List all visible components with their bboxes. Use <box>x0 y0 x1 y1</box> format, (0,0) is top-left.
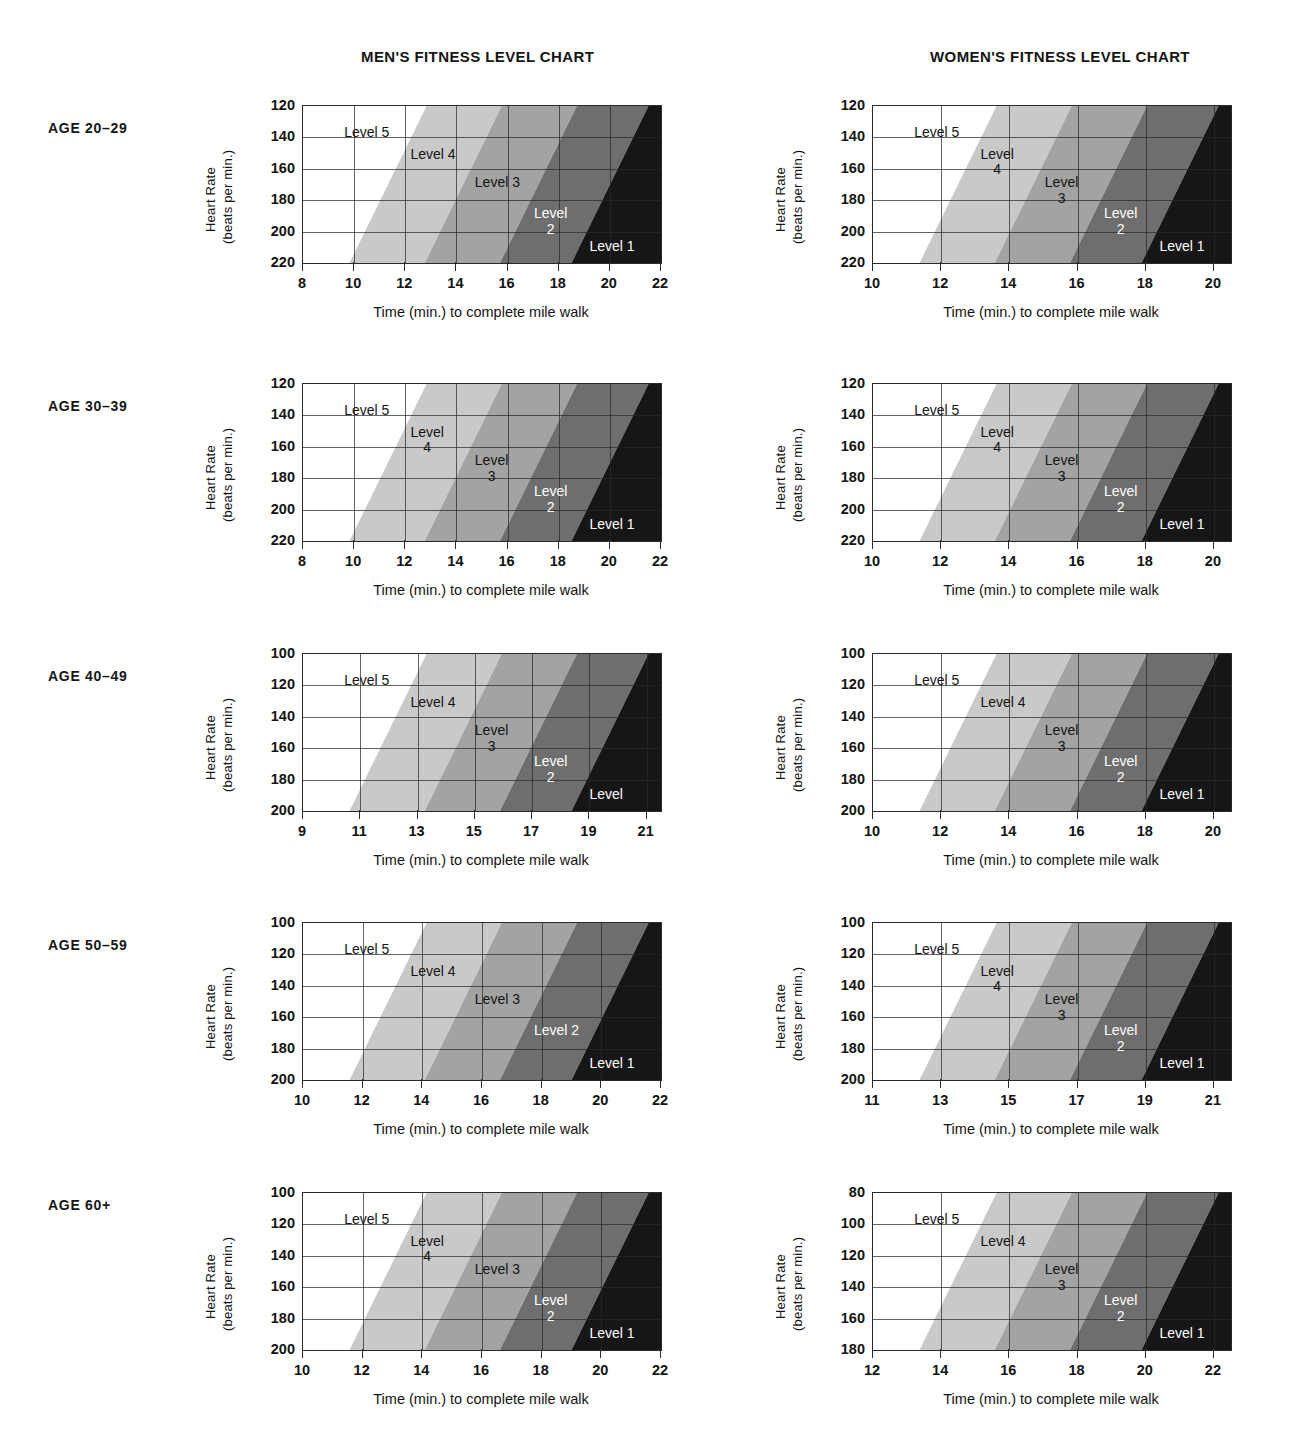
x-axis-tick-label: 17 <box>1068 1092 1084 1108</box>
gridline-horizontal <box>873 200 1231 201</box>
x-axis-title: Time (min.) to complete mile walk <box>872 1391 1230 1407</box>
gridline-vertical <box>508 384 509 541</box>
y-axis-tick-label: 200 <box>262 223 295 239</box>
gridline-horizontal <box>303 232 661 233</box>
y-axis-title-line2: (beats per min.) <box>220 697 235 791</box>
x-axis-tick-label: 20 <box>1137 1362 1153 1378</box>
y-axis-title-line1: Heart Rate <box>773 1254 788 1319</box>
y-axis-tick-label: 180 <box>832 1040 865 1056</box>
x-axis-tick-mark <box>1145 1079 1146 1088</box>
gridline-vertical <box>1009 654 1010 811</box>
y-axis-tick-label: 220 <box>832 254 865 270</box>
gridline-vertical <box>456 106 457 263</box>
y-axis-title-line2: (beats per min.) <box>790 697 805 791</box>
y-axis-tick-label: 200 <box>262 1071 295 1087</box>
x-axis-tick-mark <box>1077 1079 1078 1088</box>
x-axis-tick-label: 16 <box>1068 553 1084 569</box>
y-axis-tick-label: 100 <box>832 1215 865 1231</box>
y-axis-tick-label: 100 <box>262 1184 295 1200</box>
y-axis-tick-label: 180 <box>832 771 865 787</box>
x-axis-tick-mark <box>558 540 559 549</box>
gridline-vertical <box>941 923 942 1080</box>
fitness-level-bands <box>303 654 661 811</box>
x-axis-tick-mark <box>404 262 405 271</box>
x-axis-tick-label: 14 <box>447 553 463 569</box>
x-axis-tick-mark <box>455 540 456 549</box>
y-axis-tick-label: 200 <box>262 501 295 517</box>
gridline-horizontal <box>303 137 661 138</box>
y-axis-title-line1: Heart Rate <box>773 984 788 1049</box>
chart-men-3039: Level 5Level4Level3Level2Level 112014016… <box>302 383 660 630</box>
y-axis-tick-label: 160 <box>262 739 295 755</box>
x-axis-tick-mark <box>353 262 354 271</box>
chart-women-60+: Level 5Level 4Level3Level2Level 18010012… <box>872 1192 1230 1439</box>
y-axis-tick-label: 160 <box>262 438 295 454</box>
age-label-age-60-plus: AGE 60+ <box>48 1197 111 1213</box>
gridline-horizontal <box>873 954 1231 955</box>
fitness-chart-page: MEN'S FITNESS LEVEL CHART WOMEN'S FITNES… <box>0 0 1292 1451</box>
gridline-horizontal <box>873 748 1231 749</box>
gridline-horizontal <box>303 748 661 749</box>
y-axis-tick-label: 120 <box>262 676 295 692</box>
gridline-vertical <box>1009 1193 1010 1350</box>
chart-women-4049: Level 5Level 4Level3Level2Level 11001201… <box>872 653 1230 900</box>
x-axis-tick-mark <box>660 540 661 549</box>
x-axis-tick-mark <box>302 540 303 549</box>
y-axis-tick-label: 140 <box>262 708 295 724</box>
x-axis-tick-mark <box>1213 540 1214 549</box>
gridline-vertical <box>1214 923 1215 1080</box>
y-axis-tick-label: 160 <box>262 1278 295 1294</box>
gridline-horizontal <box>303 1319 661 1320</box>
x-axis-tick-label: 15 <box>1000 1092 1016 1108</box>
x-axis-tick-label: 19 <box>1137 1092 1153 1108</box>
x-axis-title: Time (min.) to complete mile walk <box>872 1121 1230 1137</box>
y-axis-tick-label: 120 <box>832 1247 865 1263</box>
y-axis-tick-label: 200 <box>832 802 865 818</box>
plot-area: Level 5Level 4Level3Level2Level 1 <box>872 653 1232 812</box>
x-axis-tick-mark <box>609 540 610 549</box>
gridline-vertical <box>1146 106 1147 263</box>
x-axis-tick-mark <box>588 810 589 819</box>
age-label-age-40-49: AGE 40–49 <box>48 668 127 684</box>
x-axis-tick-mark <box>404 540 405 549</box>
x-axis-tick-mark <box>940 810 941 819</box>
gridline-horizontal <box>303 954 661 955</box>
y-axis-tick-label: 160 <box>832 1008 865 1024</box>
gridline-vertical <box>363 1193 364 1350</box>
gridline-horizontal <box>303 685 661 686</box>
gridline-vertical <box>941 384 942 541</box>
x-axis-tick-label: 18 <box>1068 1362 1084 1378</box>
x-axis-tick-mark <box>1145 540 1146 549</box>
x-axis-tick-mark <box>872 810 873 819</box>
y-axis-tick-label: 160 <box>262 160 295 176</box>
fitness-level-bands <box>873 654 1231 811</box>
gridline-vertical <box>354 106 355 263</box>
y-axis-tick-label: 160 <box>832 438 865 454</box>
y-axis-tick-label: 220 <box>832 532 865 548</box>
x-axis-title: Time (min.) to complete mile walk <box>872 582 1230 598</box>
x-axis-tick-mark <box>302 262 303 271</box>
x-axis-tick-label: 12 <box>932 275 948 291</box>
x-axis-tick-label: 16 <box>498 275 514 291</box>
x-axis-tick-mark <box>1077 262 1078 271</box>
y-axis-title-line1: Heart Rate <box>773 167 788 232</box>
gridline-vertical <box>1214 384 1215 541</box>
gridline-horizontal <box>303 200 661 201</box>
x-axis-tick-mark <box>362 1079 363 1088</box>
gridline-horizontal <box>873 685 1231 686</box>
chart-women-2029: Level 5Level4Level3Level2Level 112014016… <box>872 105 1230 352</box>
x-axis-tick-label: 18 <box>1137 553 1153 569</box>
gridline-vertical <box>1009 384 1010 541</box>
gridline-horizontal <box>303 717 661 718</box>
y-axis-tick-label: 120 <box>262 375 295 391</box>
x-axis-tick-mark <box>507 540 508 549</box>
x-axis-tick-label: 17 <box>523 823 539 839</box>
gridline-vertical <box>1146 1193 1147 1350</box>
y-axis-tick-label: 180 <box>262 469 295 485</box>
gridline-vertical <box>418 654 419 811</box>
gridline-horizontal <box>873 415 1231 416</box>
gridline-vertical <box>405 384 406 541</box>
x-axis-tick-mark <box>507 262 508 271</box>
x-axis-title: Time (min.) to complete mile walk <box>302 852 660 868</box>
x-axis-tick-mark <box>660 1349 661 1358</box>
